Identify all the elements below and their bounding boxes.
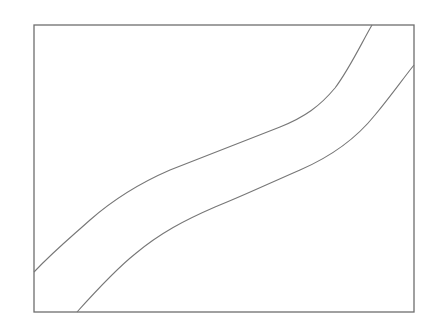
lower-curve [77, 65, 414, 312]
diagram-canvas [0, 0, 436, 331]
upper-curve [34, 25, 372, 272]
frame-border [34, 25, 414, 312]
